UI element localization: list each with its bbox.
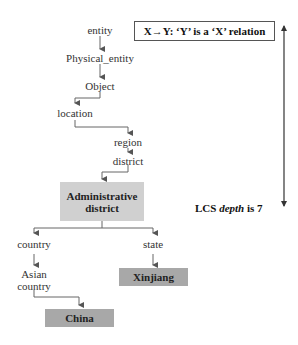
admin-district-line2: district [85, 202, 119, 214]
admin-district-line1: Administrative [67, 190, 138, 202]
legend-box: X→Y: ‘Y’ is a ‘X’ relation [134, 21, 275, 41]
node-china: China [45, 309, 114, 327]
node-object: Object [80, 80, 120, 92]
node-physical-entity: Physical_entity [60, 52, 140, 64]
lcs-italic: depth [219, 202, 244, 214]
hierarchy-connectors [0, 0, 298, 345]
node-asian-country: Asian country [14, 268, 54, 292]
node-administrative-district: Administrative district [60, 182, 144, 221]
node-country: country [12, 238, 56, 250]
node-xinjiang: Xinjiang [119, 268, 188, 286]
lcs-prefix: LCS [195, 202, 219, 214]
node-state: state [137, 238, 169, 250]
lcs-depth-label: LCS depth is 7 [195, 202, 263, 214]
asian-country-line2: country [14, 280, 54, 292]
node-district: district [106, 155, 150, 167]
asian-country-line1: Asian [14, 268, 54, 280]
lcs-suffix: is 7 [244, 202, 262, 214]
node-location: location [52, 107, 98, 119]
node-entity: entity [85, 24, 115, 36]
node-region: region [108, 136, 148, 148]
